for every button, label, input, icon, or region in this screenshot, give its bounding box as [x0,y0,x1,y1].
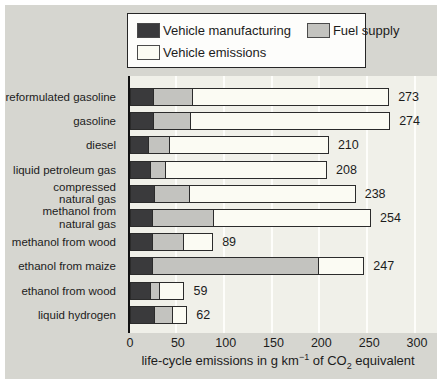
segment-fuel-supply [154,185,190,203]
plot-area: 273274210208238254892475962 [128,76,437,333]
segment-fuel-supply [148,136,170,154]
value-label: 208 [336,161,357,179]
x-tick-label-150: 150 [263,336,284,350]
segment-vehicle-emissions [190,112,390,130]
fuel-supply-swatch-icon [307,23,330,38]
value-label: 247 [373,257,394,275]
bar-liquid-petroleum-gas [130,161,327,179]
legend-row-2: Vehicle emissions [137,41,365,63]
segment-fuel-supply [152,209,214,227]
category-label: compressed natural gas [5,181,116,206]
vehicle-manufacturing-swatch-icon [137,23,160,38]
segment-vehicle-manufacturing [130,161,151,179]
bar-ethanol-from-maize [130,257,364,275]
bar-liquid-hydrogen [130,306,187,324]
segment-vehicle-emissions [172,306,187,324]
category-label: methanol from wood [5,236,116,249]
segment-vehicle-emissions [318,257,364,275]
category-axis-labels: reformulated gasolinegasolinedieselliqui… [5,76,122,333]
segment-vehicle-manufacturing [130,282,151,300]
segment-vehicle-manufacturing [130,209,153,227]
category-label: diesel [5,139,116,152]
x-axis-tick-labels: 050100150200250300 [128,336,437,351]
chart-legend: Vehicle manufacturing Fuel supply Vehicl… [127,13,366,68]
category-label: reformulated gasoline [5,91,116,104]
value-label: 254 [380,209,401,227]
segment-vehicle-manufacturing [130,112,154,130]
bar-gasoline [130,112,390,130]
x-axis-title: life-cycle emissions in g km−1 of CO2 eq… [118,353,438,368]
segment-vehicle-manufacturing [130,306,155,324]
x-tick-label-100: 100 [215,336,236,350]
category-label: ethanol from maize [5,260,116,273]
segment-fuel-supply [150,161,166,179]
segment-vehicle-emissions [165,161,327,179]
x-axis-title-superscript: −1 [299,352,309,362]
segment-vehicle-emissions [189,185,355,203]
bar-methanol-from-natural-gas [130,209,371,227]
segment-vehicle-emissions [192,88,389,106]
vehicle-emissions-swatch-icon [137,45,160,60]
value-label: 238 [365,185,386,203]
segment-vehicle-manufacturing [130,257,153,275]
segment-fuel-supply [152,233,185,251]
segment-fuel-supply [153,112,191,130]
value-label: 59 [193,282,207,300]
x-tick-label-0: 0 [127,336,134,350]
x-tick-label-300: 300 [407,336,428,350]
bar-reformulated-gasoline [130,88,389,106]
x-tick-label-200: 200 [311,336,332,350]
legend-item-fuel-supply: Fuel supply [307,23,399,38]
segment-vehicle-manufacturing [130,233,153,251]
bar-methanol-from-wood [130,233,213,251]
legend-label: Vehicle emissions [163,45,266,60]
segment-vehicle-emissions [213,209,371,227]
category-label: liquid petroleum gas [5,163,116,176]
legend-item-vehicle-manufacturing: Vehicle manufacturing [137,23,291,38]
bar-ethanol-from-wood [130,282,184,300]
segment-fuel-supply [153,88,193,106]
legend-label: Vehicle manufacturing [163,23,291,38]
value-label: 273 [398,88,419,106]
legend-label: Fuel supply [333,23,399,38]
x-tick-label-250: 250 [359,336,380,350]
legend-item-vehicle-emissions: Vehicle emissions [137,45,266,60]
value-label: 274 [399,112,420,130]
x-tick-label-50: 50 [171,336,185,350]
segment-vehicle-emissions [169,136,329,154]
segment-vehicle-manufacturing [130,136,149,154]
bar-diesel [130,136,329,154]
segment-fuel-supply [154,306,173,324]
segment-vehicle-emissions [159,282,185,300]
x-axis-title-text: life-cycle emissions in g km [141,353,299,368]
value-label: 62 [196,306,210,324]
category-label: methanol from natural gas [5,205,116,230]
bar-compressed-natural-gas [130,185,356,203]
value-label: 210 [338,136,359,154]
segment-vehicle-manufacturing [130,88,154,106]
value-label: 89 [222,233,236,251]
segment-vehicle-manufacturing [130,185,155,203]
life-cycle-emissions-figure: Vehicle manufacturing Fuel supply Vehicl… [0,0,442,385]
category-label: gasoline [5,115,116,128]
segment-vehicle-emissions [183,233,213,251]
x-axis-title-text: equivalent [352,353,415,368]
legend-row-1: Vehicle manufacturing Fuel supply [137,19,365,41]
segment-fuel-supply [152,257,319,275]
category-label: ethanol from wood [5,284,116,297]
x-axis-title-text: of CO [309,353,347,368]
category-label: liquid hydrogen [5,308,116,321]
